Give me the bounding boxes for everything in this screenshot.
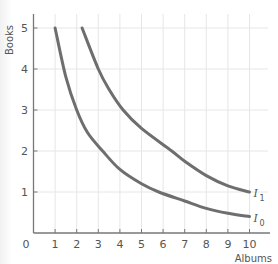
curve-label-subscript: 0 <box>260 219 265 228</box>
x-tick-label: 8 <box>203 238 210 251</box>
curves <box>55 28 249 217</box>
indifference-curve-chart: 01234567891012345BooksAlbumsI0I1 <box>0 0 278 264</box>
y-tick-label: 5 <box>21 22 28 35</box>
y-tick-label: 2 <box>21 145 28 158</box>
x-tick-label: 10 <box>243 238 257 251</box>
indifference-curve-i0 <box>55 28 249 217</box>
x-tick-label: 4 <box>116 238 123 251</box>
x-tick-label: 7 <box>181 238 188 251</box>
x-tick-label: 6 <box>160 238 167 251</box>
y-axis-title: Books <box>4 25 15 55</box>
curve-label-subscript: 1 <box>260 194 265 203</box>
x-tick-label: 9 <box>224 238 231 251</box>
curve-label-i1: I <box>253 187 259 200</box>
x-tick-label: 2 <box>73 238 80 251</box>
grid-lines <box>34 14 269 233</box>
x-tick-label: 5 <box>138 238 145 251</box>
x-tick-label: 3 <box>95 238 102 251</box>
curve-label-i0: I <box>253 212 259 225</box>
axes <box>34 14 271 233</box>
y-tick-label: 1 <box>21 186 28 199</box>
y-tick-label: 4 <box>21 63 28 76</box>
x-tick-label: 1 <box>52 238 59 251</box>
x-axis-title: Albums <box>235 253 272 264</box>
x-tick-label: 0 <box>23 238 30 251</box>
labels: 01234567891012345BooksAlbumsI0I1 <box>4 22 272 264</box>
y-tick-label: 3 <box>21 104 28 117</box>
